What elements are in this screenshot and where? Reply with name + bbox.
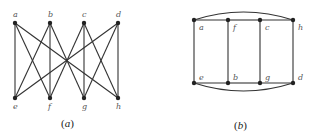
- vertex-label-c: c: [82, 10, 87, 19]
- vertex-label-a: a: [199, 23, 204, 32]
- vertex-label-f: f: [47, 102, 53, 111]
- vertex-c: [82, 21, 86, 25]
- vertex-label-a: a: [13, 10, 18, 19]
- vertex-a: [13, 21, 17, 25]
- arc-e-d: [194, 83, 293, 91]
- vertex-label-c: c: [265, 23, 270, 32]
- caption-a-letter: a: [65, 117, 71, 129]
- caption-a: (a): [61, 117, 74, 130]
- graph-panel-a: abcdefgh: [13, 10, 121, 111]
- vertex-label-h: h: [116, 102, 121, 111]
- vertex-g: [82, 96, 86, 100]
- vertex-h: [291, 18, 295, 22]
- vertex-b: [226, 81, 230, 85]
- vertex-b: [48, 21, 52, 25]
- vertex-label-d: d: [298, 73, 303, 82]
- vertex-f: [48, 96, 52, 100]
- vertex-d: [291, 81, 295, 85]
- vertex-label-g: g: [82, 102, 87, 111]
- vertex-label-e: e: [13, 102, 18, 111]
- vertex-label-e: e: [199, 73, 204, 82]
- vertex-d: [116, 21, 120, 25]
- vertex-label-b: b: [233, 73, 238, 82]
- caption-b-letter: b: [238, 119, 244, 131]
- vertex-g: [258, 81, 262, 85]
- vertex-label-g: g: [265, 73, 270, 82]
- vertex-label-h: h: [298, 23, 303, 32]
- vertex-h: [116, 96, 120, 100]
- vertex-a: [192, 18, 196, 22]
- caption-b: (b): [234, 119, 247, 132]
- arc-a-h: [194, 12, 293, 20]
- vertex-c: [258, 18, 262, 22]
- graph-panel-b: afchebgd: [192, 12, 303, 91]
- vertex-label-d: d: [116, 10, 121, 19]
- vertex-label-b: b: [48, 10, 53, 19]
- vertex-f: [226, 18, 230, 22]
- vertex-e: [192, 81, 196, 85]
- graph-figure: abcdefgh afchebgd (a) (b): [0, 0, 310, 139]
- vertex-label-f: f: [232, 23, 238, 32]
- vertex-e: [13, 96, 17, 100]
